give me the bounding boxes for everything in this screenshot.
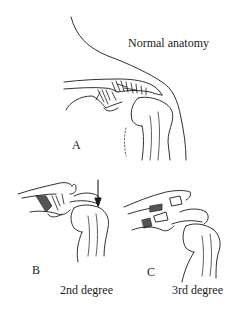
clavicle-b — [18, 183, 72, 194]
torn-ligament-b — [36, 196, 52, 212]
coracoid-c — [132, 226, 174, 231]
clavicle-a — [64, 79, 162, 95]
panel-c-drawing — [124, 191, 220, 283]
ac-ligaments-a — [112, 81, 146, 95]
panel-b-caption: 2nd degree — [60, 283, 113, 298]
panel-a-letter: A — [72, 138, 81, 153]
coracoclavicular-ligaments-a — [96, 90, 116, 104]
panel-b-letter: B — [32, 263, 40, 278]
panel-c-letter: C — [147, 265, 155, 280]
panel-a-caption: Normal anatomy — [128, 36, 209, 51]
glenoid-a — [125, 128, 127, 156]
panel-c-caption: 3rd degree — [172, 283, 223, 298]
acromion-c — [180, 209, 208, 224]
figure-canvas: Normal anatomy A B 2nd degree C 3rd degr… — [0, 0, 241, 311]
coracoid-a — [66, 96, 122, 110]
down-arrow-icon — [95, 180, 101, 206]
panel-b-drawing — [18, 180, 109, 262]
ligament-fragment — [170, 196, 182, 206]
acromion-a — [118, 91, 162, 96]
coracoid-b — [30, 210, 70, 215]
humeral-head-b — [74, 205, 109, 256]
